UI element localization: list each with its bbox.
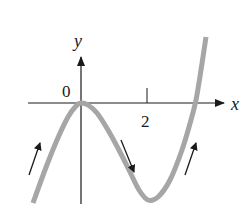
x-axis-label: x — [230, 94, 239, 114]
function-curve — [33, 37, 206, 203]
graph-canvas: y 0 x 2 — [0, 0, 248, 221]
y-axis-label: y — [72, 31, 82, 51]
cubic-function-graph: y 0 x 2 — [0, 0, 248, 221]
origin-label: 0 — [62, 82, 71, 101]
increasing-arrow-left — [29, 143, 40, 175]
x-tick-label-2: 2 — [141, 112, 150, 131]
increasing-arrow-right — [185, 143, 196, 175]
